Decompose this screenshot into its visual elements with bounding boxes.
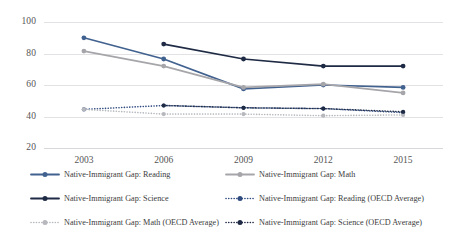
data-point xyxy=(241,112,245,116)
x-tick-label-2012: 2012 xyxy=(287,155,359,165)
data-point xyxy=(82,107,86,111)
chart-legend: Native-Immigrant Gap: ReadingNative-Immi… xyxy=(0,168,458,247)
data-point xyxy=(401,64,406,69)
x-tick-label-2009: 2009 xyxy=(208,155,280,165)
gridline-20 xyxy=(44,148,443,149)
legend-label: Native-Immigrant Gap: Science xyxy=(64,194,169,203)
legend-label: Native-Immigrant Gap: Reading (OECD Aver… xyxy=(259,194,424,203)
x-tick-label-2003: 2003 xyxy=(48,155,120,165)
series-line xyxy=(164,44,403,66)
legend-label: Native-Immigrant Gap: Math (OECD Average… xyxy=(64,218,219,227)
series-1 xyxy=(82,49,406,96)
data-point xyxy=(401,91,406,96)
legend-swatch-icon xyxy=(30,194,60,203)
data-point xyxy=(321,82,326,87)
data-point xyxy=(161,64,166,69)
legend-swatch-icon xyxy=(30,170,60,179)
data-point xyxy=(321,114,325,118)
legend-item[interactable]: Native-Immigrant Gap: Reading (OECD Aver… xyxy=(225,194,424,203)
data-point xyxy=(401,85,406,90)
plot-area xyxy=(44,22,443,148)
legend-item[interactable]: Native-Immigrant Gap: Science xyxy=(30,194,169,203)
y-tick-label-20: 20 xyxy=(2,143,36,153)
series-layer xyxy=(44,22,443,148)
legend-swatch-icon xyxy=(225,170,255,179)
chart-container: 20406080100 20032006200920122015 Native-… xyxy=(0,0,458,247)
series-2 xyxy=(161,42,405,69)
data-point xyxy=(162,103,166,107)
legend-item[interactable]: Native-Immigrant Gap: Science (OECD Aver… xyxy=(225,218,422,227)
y-tick-label-100: 100 xyxy=(2,17,36,27)
y-tick-label-60: 60 xyxy=(2,80,36,90)
data-point xyxy=(241,85,246,90)
data-point xyxy=(241,106,245,110)
data-point xyxy=(161,57,166,62)
data-point xyxy=(162,112,166,116)
data-point xyxy=(401,110,405,114)
legend-swatch-icon xyxy=(30,218,60,227)
data-point xyxy=(82,35,87,40)
legend-swatch-icon xyxy=(225,194,255,203)
data-point xyxy=(161,42,166,47)
legend-item[interactable]: Native-Immigrant Gap: Reading xyxy=(30,170,170,179)
legend-label: Native-Immigrant Gap: Science (OECD Aver… xyxy=(259,218,422,227)
legend-item[interactable]: Native-Immigrant Gap: Math (OECD Average… xyxy=(30,218,219,227)
legend-label: Native-Immigrant Gap: Math xyxy=(259,170,355,179)
legend-label: Native-Immigrant Gap: Reading xyxy=(64,170,170,179)
data-point xyxy=(321,64,326,69)
series-0 xyxy=(82,35,406,91)
data-point xyxy=(82,49,87,54)
series-line xyxy=(84,38,403,89)
x-tick-label-2006: 2006 xyxy=(128,155,200,165)
y-tick-label-40: 40 xyxy=(2,112,36,122)
y-tick-label-80: 80 xyxy=(2,49,36,59)
data-point xyxy=(241,57,246,62)
legend-swatch-icon xyxy=(225,218,255,227)
legend-item[interactable]: Native-Immigrant Gap: Math xyxy=(225,170,355,179)
data-point xyxy=(321,107,325,111)
x-tick-label-2015: 2015 xyxy=(367,155,439,165)
